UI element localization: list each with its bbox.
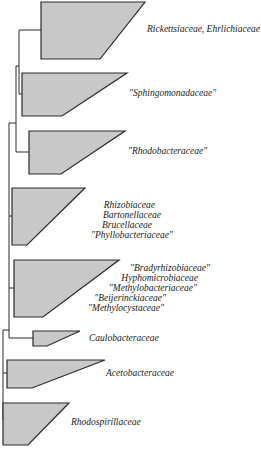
label-line: "Sphingomonadaceae" (129, 88, 216, 98)
label-line: Brucellaceae (91, 220, 152, 230)
label-line: Caulobacteraceae (89, 333, 159, 343)
clade-label-acetobacteraceae: Acetobacteraceae (106, 368, 174, 378)
label-line: Rhizobiaceae (91, 200, 155, 210)
label-line: Rickettsiaceae, Ehrlichiaceae (147, 24, 258, 34)
clade-wedge-rickettsiaceae (41, 2, 145, 59)
label-line: "Methylocystaceae" (88, 303, 156, 313)
clade-label-rickettsiaceae: Rickettsiaceae, Ehrlichiaceae (147, 24, 258, 34)
clade-wedge-sphingomonadaceae (22, 73, 127, 116)
label-line: Acetobacteraceae (106, 368, 174, 378)
label-line: Hyphomicrobiaceae (88, 273, 198, 283)
clade-wedge-rhizobiaceae (12, 188, 85, 245)
label-line: "Phyllobacteriaceae" (91, 230, 158, 240)
clade-label-rhodobacteraceae: "Rhodobacteraceae" (128, 146, 207, 156)
clade-label-rhodospirillaceae: Rhodospirillaceae (71, 417, 141, 427)
clade-wedge-acetobacteraceae (7, 360, 105, 388)
label-line: "Methylobacteriaceae" (88, 283, 197, 293)
label-line: "Rhodobacteraceae" (128, 146, 207, 156)
clade-label-bradyrhizobiaceae: "Bradyrhizobiaceae" Hyphomicrobiaceae "M… (88, 263, 210, 313)
clade-wedge-rhodobacteraceae (29, 131, 125, 174)
clade-wedge-caulobacteraceae (33, 331, 80, 346)
clade-label-sphingomonadaceae: "Sphingomonadaceae" (129, 88, 216, 98)
label-line: "Bradyrhizobiaceae" (88, 263, 210, 273)
label-line: Rhodospirillaceae (71, 417, 141, 427)
clade-wedge-rhodospirillaceae (3, 403, 69, 445)
clade-label-caulobacteraceae: Caulobacteraceae (89, 333, 159, 343)
label-line: Bartonellaceae (91, 210, 161, 220)
clade-label-rhizobiaceae: Rhizobiaceae Bartonellaceae Brucellaceae… (91, 200, 153, 240)
label-line: "Beijerinckiaceae" (88, 293, 166, 303)
